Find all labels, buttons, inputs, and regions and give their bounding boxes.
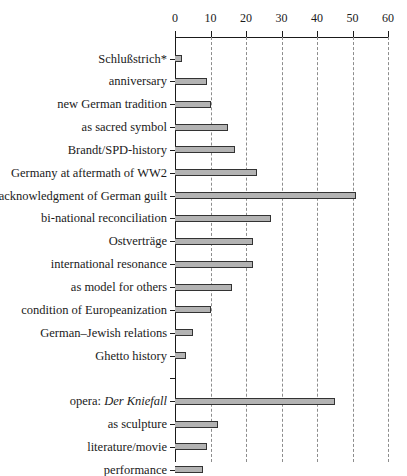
x-axis-tick <box>317 31 318 37</box>
x-axis-tick <box>282 31 283 37</box>
y-axis-tick <box>170 378 175 379</box>
plot-area: 0102030405060Schlußstrich*anniversarynew… <box>175 37 388 462</box>
category-label: as sculpture <box>108 418 167 431</box>
category-label: performance <box>104 463 167 476</box>
bar <box>175 192 356 199</box>
x-axis-tick-label: 0 <box>172 12 178 24</box>
x-axis-tick-label: 40 <box>311 12 323 24</box>
bar <box>175 146 235 153</box>
x-axis-tick <box>175 31 176 37</box>
bar <box>175 169 257 176</box>
category-label: condition of Europeanization <box>21 303 167 316</box>
category-label: acknowledgment of German guilt <box>0 189 167 202</box>
x-axis-tick-label: 60 <box>382 12 394 24</box>
bar <box>175 78 207 85</box>
bar <box>175 215 271 222</box>
category-label: Schlußstrich* <box>98 52 167 65</box>
bar <box>175 443 207 450</box>
bar <box>175 284 232 291</box>
x-axis-tick-label: 10 <box>205 12 217 24</box>
bar <box>175 261 253 268</box>
x-axis-tick-label: 50 <box>347 12 359 24</box>
gridline <box>388 37 389 462</box>
gridline <box>353 37 354 462</box>
bar <box>175 466 203 473</box>
category-label: Ostverträge <box>109 235 167 248</box>
category-label: international resonance <box>51 258 167 271</box>
bar <box>175 238 253 245</box>
category-label: as model for others <box>71 281 167 294</box>
category-label: Germany at aftermath of WW2 <box>11 166 167 179</box>
x-axis-tick-label: 20 <box>240 12 252 24</box>
category-label: new German tradition <box>57 98 167 111</box>
bar <box>175 329 193 336</box>
category-label: anniversary <box>109 75 167 88</box>
x-axis-tick-label: 30 <box>276 12 288 24</box>
category-label: as sacred symbol <box>82 121 167 134</box>
bar <box>175 55 182 62</box>
category-label: opera: Der Kniefall <box>70 395 167 408</box>
bar <box>175 306 211 313</box>
x-axis-tick <box>353 31 354 37</box>
category-label: literature/movie <box>87 440 167 453</box>
category-label: bi-national reconciliation <box>41 212 167 225</box>
bar <box>175 352 186 359</box>
category-label: German–Jewish relations <box>40 326 167 339</box>
bar <box>175 398 335 405</box>
category-label: Brandt/SPD-history <box>68 143 167 156</box>
category-label: Ghetto history <box>95 349 167 362</box>
bar <box>175 421 218 428</box>
bar <box>175 101 211 108</box>
x-axis-tick <box>211 31 212 37</box>
x-axis-tick <box>388 31 389 37</box>
x-axis-tick <box>246 31 247 37</box>
bar <box>175 124 228 131</box>
